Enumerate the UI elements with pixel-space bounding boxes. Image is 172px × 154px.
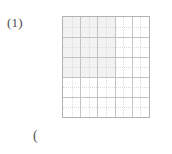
page-canvas: (1) [0,0,172,154]
trailing-paren-text: ( [33,128,38,144]
grid-major-gridlines [63,17,149,117]
grid-major-hline [63,37,149,38]
grid-major-vline [80,17,81,117]
grid-major-vline [115,17,116,117]
grid-figure [62,16,150,118]
problem-number-label: (1) [7,15,23,31]
grid-major-hline [63,77,149,78]
grid-major-vline [132,17,133,117]
grid-outer-border [62,16,150,118]
grid-major-hline [63,97,149,98]
grid-major-vline [97,17,98,117]
grid-major-hline [63,57,149,58]
